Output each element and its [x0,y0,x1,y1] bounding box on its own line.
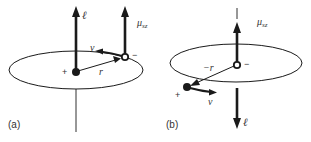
panel-b: μsz ℓ −r ν + − (b) [166,8,302,130]
radius-label-b: −r [203,62,214,73]
orbital-diagram: ℓ μsz ν r + − (a) μsz ℓ −r ν + [0,0,311,142]
magnetic-moment-arrowhead-a [121,6,129,17]
panel-label-a: (a) [8,119,20,130]
magnetic-moment-label-a: μsz [136,17,148,30]
radius-label-a: r [99,66,103,77]
velocity-arrowhead-a [95,49,103,55]
angular-momentum-label-b: ℓ [243,116,248,128]
velocity-arrow-a [100,52,122,57]
electron-charge-label-b: − [244,59,249,69]
nucleus-b [183,83,191,91]
radius-arrowhead-a [113,56,121,63]
radius-arrow-b [196,66,234,83]
magnetic-moment-arrowhead-b [233,22,241,33]
electron-a [122,54,128,60]
panel-label-b: (b) [166,119,178,130]
velocity-label-a: ν [90,42,95,53]
velocity-arrow-b [190,88,211,92]
nucleus-a [72,68,80,76]
radius-arrowhead-b [190,79,200,86]
panel-a: ℓ μsz ν r + − (a) [8,6,148,132]
nucleus-charge-label-a: + [62,67,67,77]
nucleus-charge-label-b: + [175,90,180,100]
angular-momentum-arrowhead-a [72,6,80,17]
velocity-label-b: ν [208,96,213,107]
angular-momentum-label-a: ℓ [82,9,87,21]
magnetic-moment-label-b: μsz [256,16,268,29]
electron-b [234,62,240,68]
electron-charge-label-a: − [132,50,137,60]
velocity-arrowhead-b [209,89,217,96]
angular-momentum-arrowhead-b [233,118,241,129]
